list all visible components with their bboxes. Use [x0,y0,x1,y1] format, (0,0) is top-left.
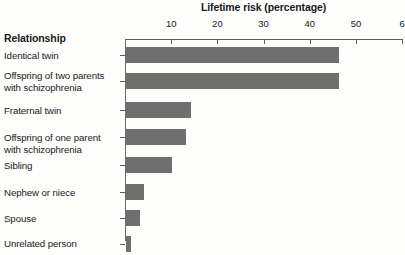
x-tick-label: 20 [212,18,223,29]
category-label: Spouse [4,213,124,225]
x-tick-label: 40 [305,18,316,29]
category-label-line: with schizophrenia [4,82,124,94]
x-tick-label: 30 [258,18,269,29]
x-tick-mark [356,39,357,44]
category-label-line: with schizophrenia [4,144,124,156]
bar [126,184,144,200]
category-label-line: Spouse [4,213,124,225]
bar [126,73,339,89]
category-label: Unrelated person [4,238,124,250]
category-label-line: Offspring of one parent [4,132,124,144]
category-label-line: Offspring of two parents [4,70,124,82]
category-label-line: Fraternal twin [4,105,124,117]
chart-title: Lifetime risk (percentage) [125,1,402,13]
category-label-line: Nephew or niece [4,187,124,199]
x-tick-label: 6 [400,18,405,29]
x-tick-mark [310,39,311,44]
x-tick-mark [217,39,218,44]
bar [126,210,140,226]
category-label: Sibling [4,160,124,172]
category-label: Offspring of two parentswith schizophren… [4,70,124,93]
bar [126,157,172,173]
category-label: Fraternal twin [4,105,124,117]
x-tick-mark [171,39,172,44]
bar [126,102,191,118]
category-label: Nephew or niece [4,187,124,199]
category-label: Identical twin [4,50,124,62]
x-tick-label: 50 [351,18,362,29]
category-label-line: Sibling [4,160,124,172]
x-tick-label: 10 [166,18,177,29]
category-label-line: Identical twin [4,50,124,62]
bar [126,236,131,252]
bar [126,129,186,145]
bar [126,47,339,63]
x-tick-mark [264,39,265,44]
y-axis-header: Relationship [4,32,66,44]
category-label-line: Unrelated person [4,238,124,250]
x-tick-mark [402,39,403,44]
category-label: Offspring of one parentwith schizophreni… [4,132,124,155]
